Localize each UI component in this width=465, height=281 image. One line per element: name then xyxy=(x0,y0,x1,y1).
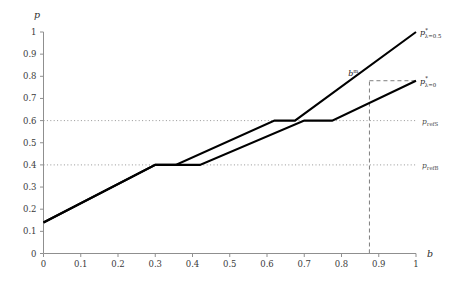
chart-figure: 00.10.20.30.40.50.60.70.80.91 00.10.20.3… xyxy=(0,0,465,281)
x-axis-ticks: 00.10.20.30.40.50.60.70.80.91 xyxy=(41,254,419,269)
x-tick-label: 0.8 xyxy=(335,259,349,269)
y-axis-label: p xyxy=(34,9,40,20)
series-label-subscript: λ=0 xyxy=(425,82,437,88)
reference-label-p_refB: prefB xyxy=(422,161,439,171)
y-tick-label: 0.7 xyxy=(23,93,37,103)
series-label-p*_{lambda=0.5}: p*λ=0.5 xyxy=(420,27,442,40)
y-tick-label: 0.4 xyxy=(23,160,37,170)
annotation-lines-group xyxy=(369,81,416,254)
x-axis-label: b xyxy=(427,248,433,259)
y-tick-label: 0.6 xyxy=(23,116,37,126)
series-end-labels: p*λ=0.5p*λ=0 xyxy=(420,27,442,88)
y-tick-label: 0.8 xyxy=(23,71,37,81)
reference-label-subscript: refS xyxy=(427,121,439,127)
x-tick-label: 1 xyxy=(413,259,418,269)
series-label-subscript: λ=0.5 xyxy=(425,33,442,39)
x-tick-label: 0.4 xyxy=(186,259,200,269)
y-axis-ticks: 00.10.20.30.40.50.60.70.80.91 xyxy=(23,27,44,259)
x-tick-label: 0.6 xyxy=(260,259,274,269)
series-line-p*_{lambda=0} xyxy=(44,81,417,223)
reference-label-p_refS: prefS xyxy=(422,117,439,127)
x-tick-label: 0 xyxy=(41,259,46,269)
y-tick-label: 0.3 xyxy=(23,182,37,192)
y-tick-label: 0.2 xyxy=(23,204,37,214)
y-tick-label: 0.1 xyxy=(23,226,37,236)
series-label-p*_{lambda=0}: p*λ=0 xyxy=(420,75,437,88)
reference-label-subscript: refB xyxy=(427,165,439,171)
x-tick-label: 0.7 xyxy=(297,259,311,269)
y-tick-label: 0 xyxy=(31,249,36,259)
x-tick-label: 0.9 xyxy=(372,259,386,269)
reference-line-labels: prefSprefB xyxy=(422,117,439,171)
annotation-label-superscript: m xyxy=(353,68,358,74)
axes-group xyxy=(44,32,417,254)
y-tick-label: 0.9 xyxy=(23,49,37,59)
x-tick-label: 0.1 xyxy=(74,259,88,269)
y-tick-label: 0.5 xyxy=(23,138,37,148)
data-series-group xyxy=(44,32,417,222)
series-label-superscript: * xyxy=(425,27,428,33)
x-tick-label: 0.3 xyxy=(148,259,162,269)
y-tick-label: 1 xyxy=(31,27,36,37)
reference-lines-group xyxy=(44,121,418,165)
x-tick-label: 0.2 xyxy=(111,259,125,269)
line-chart-canvas: 00.10.20.30.40.50.60.70.80.91 00.10.20.3… xyxy=(0,0,465,281)
series-label-superscript: * xyxy=(425,75,428,81)
x-tick-label: 0.5 xyxy=(223,259,237,269)
